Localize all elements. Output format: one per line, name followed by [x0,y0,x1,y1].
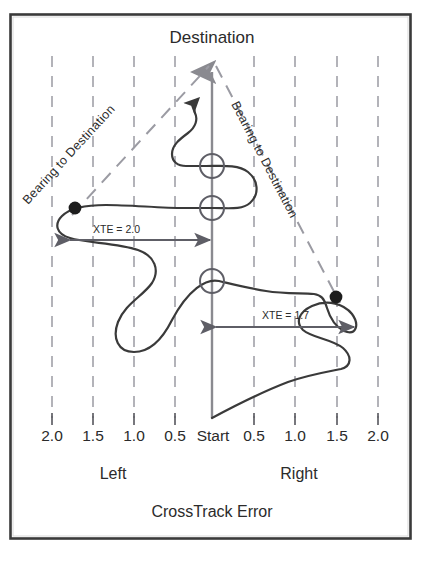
position-marker-right [330,291,343,304]
xte-right-label: XTE = 1.7 [262,309,309,321]
axis-label-left-0_5: 0.5 [164,427,186,444]
figure-border [11,15,411,539]
position-marker-left [69,202,82,215]
axis-label-right-2_0: 2.0 [367,427,389,444]
page-title: Destination [169,28,254,47]
axis-label-right-1_5: 1.5 [326,427,348,444]
right-side-label: Right [280,465,318,482]
axis-label-left-1_0: 1.0 [123,427,145,444]
figure-caption: CrossTrack Error [151,503,273,520]
xte-left-label: XTE = 2.0 [93,223,140,235]
figure-canvas: Destination Bearing to Destination Beari… [0,0,423,562]
left-side-label: Left [100,465,127,482]
axis-label-right-0_5: 0.5 [243,427,265,444]
axis-label-right-1_0: 1.0 [284,427,306,444]
crosstrack-error-figure: Destination Bearing to Destination Beari… [0,0,423,562]
axis-label-start: Start [197,427,230,444]
axis-label-left-1_5: 1.5 [82,427,104,444]
axis-label-left-2_0: 2.0 [41,427,63,444]
